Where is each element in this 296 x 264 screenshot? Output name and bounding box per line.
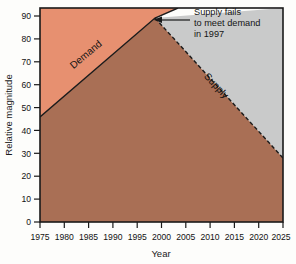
x-tick-label: 2000	[152, 232, 171, 242]
y-tick-label: 90	[21, 11, 31, 21]
x-tick-label: 2025	[271, 232, 290, 242]
x-axis-title: Year	[151, 248, 170, 259]
y-tick-label: 30	[21, 149, 31, 159]
plot-areas	[40, 8, 283, 222]
x-tick-label: 2010	[201, 232, 220, 242]
x-tick-label: 1995	[128, 232, 147, 242]
y-tick-label: 0	[26, 217, 31, 227]
x-tick-label: 1985	[79, 232, 98, 242]
x-axis-ticks	[40, 222, 283, 228]
y-axis-ticks	[34, 16, 40, 222]
x-tick-label: 1990	[103, 232, 122, 242]
y-tick-label: 50	[21, 103, 31, 113]
y-tick-label: 20	[21, 171, 31, 181]
annotation-line-1: Supply fails	[194, 7, 241, 17]
y-tick-label: 40	[21, 126, 31, 136]
x-tick-labels: 1975 1980 1985 1990 1995 2000 2005 2010 …	[30, 232, 290, 242]
y-tick-label: 60	[21, 80, 31, 90]
x-tick-label: 2005	[176, 232, 195, 242]
annotation-line-3: in 1997	[194, 29, 224, 39]
x-tick-label: 2020	[249, 232, 268, 242]
x-tick-label: 1980	[55, 232, 74, 242]
y-tick-labels: 90 80 70 60 50 40 30 20 10 0	[21, 11, 31, 227]
y-tick-label: 80	[21, 34, 31, 44]
chart-container: 90 80 70 60 50 40 30 20 10 0 1975 1980 1…	[0, 0, 296, 264]
y-tick-label: 10	[21, 194, 31, 204]
annotation-line-2: to meet demand	[194, 18, 260, 28]
x-tick-label: 2015	[225, 232, 244, 242]
y-axis-title: Relative magnitude	[3, 74, 14, 155]
y-tick-label: 70	[21, 57, 31, 67]
supply-demand-area-chart: 90 80 70 60 50 40 30 20 10 0 1975 1980 1…	[0, 0, 296, 264]
x-tick-label: 1975	[30, 232, 49, 242]
